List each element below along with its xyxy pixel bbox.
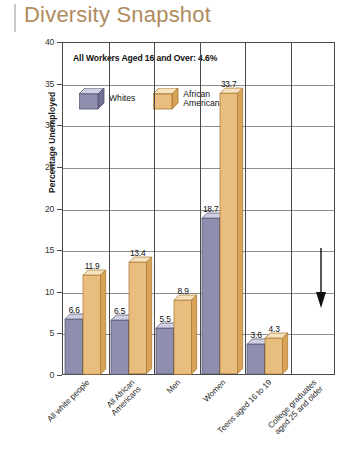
- y-tick-label-25: 25: [28, 162, 54, 172]
- down-arrow-icon: [314, 248, 328, 312]
- bar-african-americans-2: [174, 300, 192, 374]
- plot-area: Percentage Unemployed All Workers Aged 1…: [62, 42, 335, 375]
- gridline-35: [63, 85, 334, 86]
- bar-chart: Percentage Unemployed All Workers Aged 1…: [0, 0, 356, 455]
- x-axis-label-5: College graduates aged 25 and older: [227, 378, 325, 455]
- cube-icon: [79, 88, 105, 110]
- group-separator-5: [291, 43, 292, 374]
- y-tick-mark-30: [57, 125, 62, 126]
- gridline-15: [63, 251, 334, 252]
- cube-icon: [153, 88, 179, 110]
- y-tick-mark-20: [57, 209, 62, 210]
- bar-whites-1: [111, 320, 129, 374]
- y-tick-label-40: 40: [28, 37, 54, 47]
- y-tick-label-20: 20: [28, 204, 54, 214]
- y-axis-label: Percentage Unemployed: [47, 92, 57, 193]
- group-separator-1: [109, 43, 110, 374]
- bar-value-label: 33.7: [214, 79, 244, 89]
- y-tick-mark-5: [57, 333, 62, 334]
- chart-legend: Whites African Americans: [79, 88, 224, 110]
- y-tick-label-30: 30: [28, 120, 54, 130]
- gridline-25: [63, 168, 334, 169]
- bar-african-americans-3: [220, 93, 238, 374]
- legend-item-whites: Whites: [79, 88, 135, 110]
- legend-label-whites: Whites: [109, 94, 135, 103]
- gridline-30: [63, 126, 334, 127]
- y-tick-mark-35: [57, 84, 62, 85]
- bar-value-label: 4.3: [259, 324, 289, 334]
- y-tick-mark-10: [57, 292, 62, 293]
- bar-value-label: 8.9: [168, 286, 198, 296]
- x-axis-label-1: All African Americans: [45, 378, 143, 455]
- y-tick-label-0: 0: [28, 370, 54, 380]
- y-tick-mark-40: [57, 42, 62, 43]
- y-tick-label-10: 10: [28, 287, 54, 297]
- y-tick-mark-15: [57, 250, 62, 251]
- bar-whites-2: [156, 328, 174, 374]
- bar-whites-4: [247, 344, 265, 374]
- y-tick-label-5: 5: [28, 328, 54, 338]
- legend-item-african-americans: African Americans: [153, 88, 224, 110]
- y-tick-label-35: 35: [28, 79, 54, 89]
- group-separator-4: [245, 43, 246, 374]
- bar-whites-3: [202, 218, 220, 374]
- chart-annotation-text: All Workers Aged 16 and Over: 4.6%: [73, 53, 217, 63]
- bar-african-americans-4: [265, 338, 283, 374]
- bar-african-americans-1: [129, 262, 147, 374]
- y-tick-label-15: 15: [28, 245, 54, 255]
- group-separator-2: [154, 43, 155, 374]
- bar-value-label: 13.4: [123, 248, 153, 258]
- bar-whites-0: [65, 319, 83, 374]
- y-tick-mark-25: [57, 167, 62, 168]
- y-tick-mark-0: [57, 375, 62, 376]
- bar-value-label: 11.9: [77, 261, 107, 271]
- bar-african-americans-0: [83, 275, 101, 374]
- legend-label-african-americans: African Americans: [183, 90, 224, 108]
